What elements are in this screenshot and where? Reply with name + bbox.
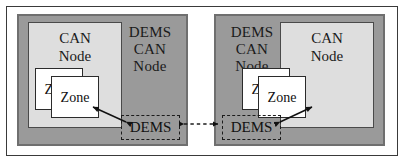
can-node-left-title-line-1: CAN <box>29 29 121 47</box>
dems-can-node-right: DEMS CAN Node CAN Node Zone Zone DEMS <box>214 14 385 146</box>
can-node-right-title-line-2: Node <box>281 47 373 65</box>
dems-box-left: DEMS <box>121 115 180 140</box>
can-node-right-title-line-1: CAN <box>281 29 373 47</box>
dems-can-node-left: DEMS CAN Node CAN Node Zone Zone DEMS <box>17 14 188 146</box>
dems-can-node-left-title-line-2: CAN <box>118 41 182 58</box>
dems-can-node-right-title-line-2: CAN <box>220 41 284 58</box>
dems-can-node-left-title-line-1: DEMS <box>118 24 182 41</box>
dems-can-node-left-title-line-3: Node <box>118 58 182 75</box>
zone-box-left-front: Zone <box>51 76 99 118</box>
can-node-left-title-line-2: Node <box>29 47 121 65</box>
dems-can-node-left-title: DEMS CAN Node <box>118 24 182 75</box>
dems-box-right: DEMS <box>222 115 281 140</box>
can-node-left-title: CAN Node <box>29 29 121 65</box>
can-node-right-title: CAN Node <box>281 29 373 65</box>
zone-box-right-front: Zone <box>258 76 306 118</box>
diagram-canvas: DEMS CAN Node CAN Node Zone Zone DEMS DE… <box>0 0 406 168</box>
dems-can-node-right-title-line-1: DEMS <box>220 24 284 41</box>
